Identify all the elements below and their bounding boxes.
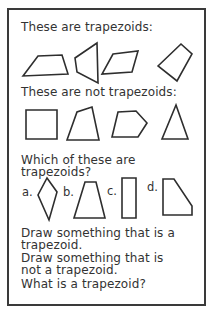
right-trapezoid-shape [163,179,192,215]
trapezoid-examples-row [23,43,192,83]
option-label-d: d. [147,182,158,193]
square-shape [26,110,57,139]
trapezoid-slanted-sides-shape [23,55,68,76]
irregular-quadrilateral-shape [67,107,99,140]
sideways-trapezoid-shape [75,43,98,83]
option-label-b: b. [63,187,74,198]
triangle-shape [162,105,188,139]
isosceles-trapezoid-shape [74,182,105,218]
prompt-what-is-trapezoid: What is a trapezoid? [21,279,191,291]
heading-these-are-trapezoids: These are trapezoids: [21,22,153,34]
option-label-a: a. [22,187,33,198]
non-trapezoid-examples-row [26,105,188,140]
prompt-draw-trapezoid: Draw something that is a trapezoid. [21,228,186,251]
heading-these-are-not-trapezoids: These are not trapezoids: [21,87,177,99]
pentagon-shape [112,111,147,137]
option-label-c: c. [107,186,117,197]
heading-which-are-trapezoids: Which of these are trapezoids? [21,155,166,178]
flat-parallelogram-trapezoid-shape [102,51,138,74]
kite-shape [38,178,57,220]
rectangle-shape [122,178,136,218]
prompt-draw-not-trapezoid: Draw something that is not a trapezoid. [21,253,186,276]
rotated-trapezoid-shape [158,44,192,81]
